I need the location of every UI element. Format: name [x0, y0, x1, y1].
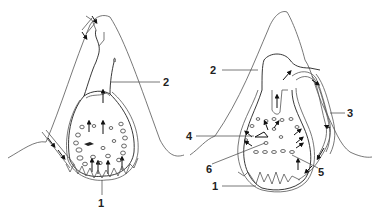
- right-label-5: 5: [318, 166, 324, 178]
- right-label-2: 2: [210, 64, 216, 76]
- left-neck: [84, 30, 115, 96]
- right-label-3: 3: [347, 107, 353, 119]
- right-label-6: 6: [206, 163, 212, 175]
- diagram-canvas: 2 1: [0, 0, 376, 213]
- left-structure: 2 1: [8, 16, 184, 209]
- left-chamber: [69, 91, 135, 176]
- right-apex: [262, 54, 320, 90]
- left-base-tissue: [66, 158, 138, 178]
- left-cells: [74, 122, 128, 166]
- left-label-1: 1: [98, 197, 104, 209]
- right-label-4: 4: [186, 130, 193, 142]
- left-label-2: 2: [163, 76, 169, 88]
- right-base-tissue: [238, 172, 300, 184]
- right-structure: 2 3 4 6 5 1: [186, 12, 372, 192]
- right-label-1: 1: [212, 180, 218, 192]
